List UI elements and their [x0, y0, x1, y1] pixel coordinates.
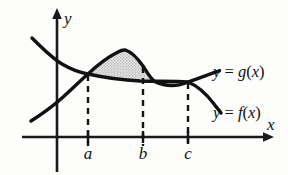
y-axis-label: y	[62, 9, 72, 28]
curve-label-f-close: )	[255, 103, 261, 122]
curve-label-g-eq: =	[220, 62, 238, 81]
point-label-b: b	[139, 144, 148, 163]
area-between-curves-figure: y x a b c y = g(x) y = f(x)	[0, 0, 288, 175]
curve-label-f: y = f(x)	[211, 103, 261, 122]
point-label-c: c	[184, 144, 192, 163]
x-axis	[22, 132, 274, 142]
point-label-a: a	[84, 144, 93, 163]
curve-label-g-close: )	[259, 62, 265, 81]
curve-label-f-eq: =	[220, 103, 238, 122]
x-axis-label: x	[266, 115, 275, 134]
curve-label-g: y = g(x)	[211, 62, 264, 81]
curve-label-g-fn: g	[238, 62, 246, 81]
y-axis	[52, 8, 62, 172]
